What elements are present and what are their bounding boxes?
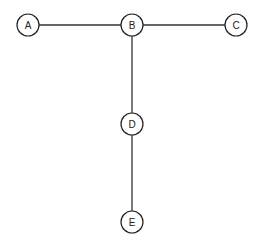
node-a: A [17,14,39,36]
tree-diagram: A B C D E [0,0,259,246]
node-a-label: A [25,20,32,31]
node-c: C [225,14,247,36]
node-d-label: D [128,119,135,130]
node-b: B [121,14,143,36]
node-c-label: C [232,20,239,31]
node-d: D [121,113,143,135]
node-e: E [121,211,143,233]
node-b-label: B [129,20,136,31]
node-e-label: E [129,217,136,228]
